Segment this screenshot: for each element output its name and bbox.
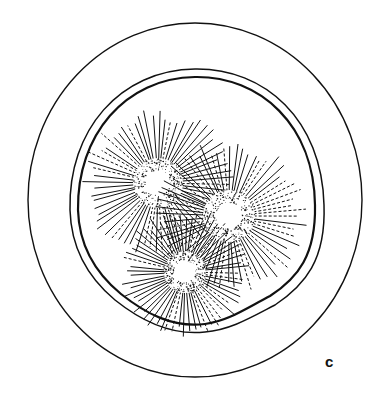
panel-label: c [325,353,333,370]
capsule-illustration [0,0,384,405]
spiny-spheres-group [82,111,306,337]
sphere-top-left [82,111,233,258]
